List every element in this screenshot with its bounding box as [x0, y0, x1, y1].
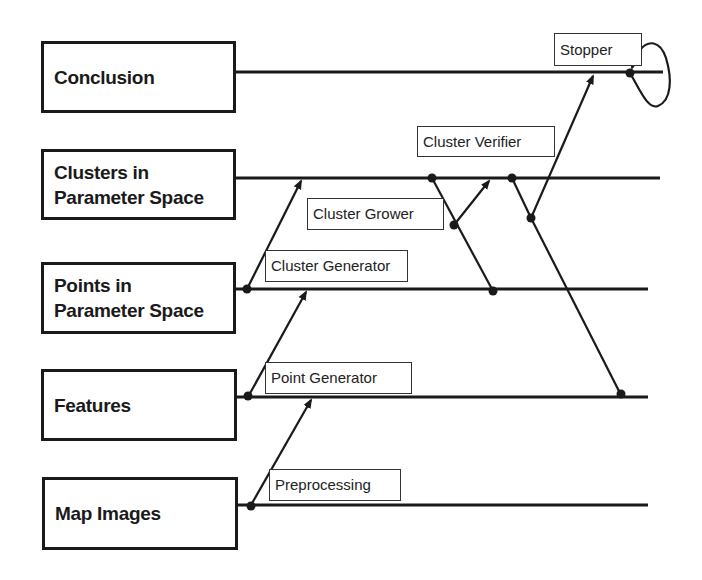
- level-box-conclusion: Conclusion: [41, 41, 236, 113]
- level-box-features: Features: [41, 369, 237, 441]
- agent-label-cluster-generator: Cluster Generator: [265, 250, 408, 282]
- node-dot: [428, 174, 437, 183]
- level-label-line1: Clusters in: [54, 160, 233, 185]
- agent-label-cluster-verifier: Cluster Verifier: [417, 126, 555, 157]
- node-dot: [626, 69, 635, 78]
- node-dot: [489, 287, 498, 296]
- arrow-cluster-grower: [454, 181, 489, 225]
- diagram-canvas: Conclusion Clusters in Parameter Space P…: [0, 0, 702, 580]
- level-label-line2: Parameter Space: [54, 298, 233, 323]
- node-dot: [244, 392, 253, 401]
- level-box-clusters: Clusters in Parameter Space: [41, 149, 236, 220]
- level-box-map-images: Map Images: [42, 477, 238, 550]
- agent-label-preprocessing: Preprocessing: [269, 469, 401, 501]
- level-label: Map Images: [55, 501, 235, 526]
- node-dot: [247, 502, 256, 511]
- link-verifier-to-features: [531, 218, 621, 395]
- agent-label-point-generator: Point Generator: [265, 362, 412, 394]
- agent-label-stopper: Stopper: [554, 33, 642, 66]
- node-dot: [617, 390, 626, 399]
- link-clusters-to-points-a: [432, 178, 493, 291]
- node-dot: [450, 221, 459, 230]
- level-label: Features: [54, 393, 234, 418]
- node-dot: [243, 285, 252, 294]
- level-box-points: Points in Parameter Space: [41, 262, 236, 334]
- link-clusters-to-features-b: [512, 178, 531, 218]
- level-label-line2: Parameter Space: [54, 185, 233, 210]
- node-dot: [527, 214, 536, 223]
- level-label: Conclusion: [54, 65, 233, 90]
- agent-label-cluster-grower: Cluster Grower: [307, 198, 444, 230]
- node-dot: [508, 174, 517, 183]
- level-label-line1: Points in: [54, 273, 233, 298]
